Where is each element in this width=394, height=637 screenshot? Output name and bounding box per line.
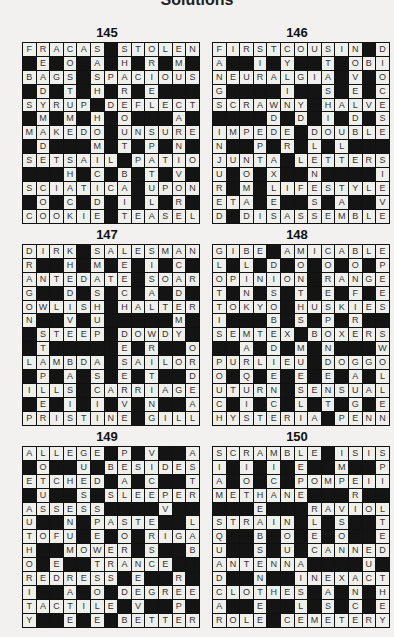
letter-cell: U [227,154,240,167]
letter-cell: P [254,140,267,153]
letter-cell: R [173,572,186,585]
letter-cell: S [105,489,118,502]
letter-cell: E [186,126,199,139]
letter-cell: D [37,85,50,98]
letter-cell: T [322,398,335,411]
black-square [349,461,362,474]
letter-cell: S [77,489,90,502]
letter-cell: S [132,461,145,474]
letter-cell: E [267,370,280,383]
letter-cell: O [335,530,348,543]
letter-cell: B [267,314,280,327]
letter-cell: E [322,287,335,300]
black-square [322,461,335,474]
letter-cell: E [64,614,77,627]
black-square [105,370,118,383]
letter-cell: S [91,287,104,300]
letter-cell: L [159,43,172,56]
letter-cell: R [240,447,253,460]
black-square [105,398,118,411]
black-square [77,314,90,327]
letter-cell: D [308,126,321,139]
letter-cell: E [376,398,389,411]
letter-cell: T [105,273,118,286]
letter-cell: T [213,287,226,300]
letter-cell: I [227,43,240,56]
letter-cell: O [186,342,199,355]
letter-cell: I [322,112,335,125]
black-square [254,112,267,125]
letter-cell: Y [37,99,50,112]
letter-cell: E [132,245,145,258]
black-square [267,544,280,557]
letter-cell: T [376,572,389,585]
letter-cell: E [64,126,77,139]
letter-cell: N [186,43,199,56]
letter-cell: N [173,140,186,153]
letter-cell: R [186,356,199,369]
black-square [227,57,240,70]
letter-cell: O [64,57,77,70]
letter-cell: D [376,544,389,557]
letter-cell: S [91,43,104,56]
letter-cell: G [145,412,158,425]
letter-cell: O [281,273,294,286]
black-square [254,398,267,411]
letter-cell: U [145,182,158,195]
letter-cell: E [322,370,335,383]
letter-cell: L [254,356,267,369]
letter-cell: O [376,356,389,369]
letter-cell: A [145,287,158,300]
black-square [281,370,294,383]
letter-cell: L [50,447,63,460]
black-square [267,530,280,543]
letter-cell: N [145,398,158,411]
letter-cell: R [50,245,63,258]
letter-cell: E [118,273,131,286]
letter-cell: I [363,447,376,460]
letter-cell: U [281,544,294,557]
letter-cell: E [37,572,50,585]
black-square [105,447,118,460]
black-square [118,314,131,327]
black-square [335,314,348,327]
letter-cell: N [186,245,199,258]
letter-cell: E [50,558,63,571]
black-square [77,558,90,571]
black-square [363,530,376,543]
letter-cell: S [64,412,77,425]
letter-cell: O [37,196,50,209]
black-square [227,600,240,613]
black-square [363,196,376,209]
black-square [281,475,294,488]
letter-cell: U [213,168,226,181]
letter-cell: H [64,168,77,181]
letter-cell: B [105,461,118,474]
letter-cell: S [322,301,335,314]
letter-cell: S [335,384,348,397]
letter-cell: N [23,314,36,327]
letter-cell: U [64,530,77,543]
black-square [132,412,145,425]
letter-cell: N [349,43,362,56]
letter-cell: W [267,99,280,112]
black-square [363,516,376,529]
letter-cell: H [64,475,77,488]
black-square [254,370,267,383]
letter-cell: G [349,356,362,369]
black-square [50,259,63,272]
letter-cell: N [295,273,308,286]
letter-cell: P [23,412,36,425]
black-square [227,314,240,327]
letter-cell: C [118,287,131,300]
letter-cell: L [376,384,389,397]
black-square [227,112,240,125]
letter-cell: U [335,126,348,139]
letter-cell: I [64,301,77,314]
letter-cell: I [37,245,50,258]
letter-cell: I [145,71,158,84]
letter-cell: E [267,196,280,209]
letter-cell: A [254,99,267,112]
letter-cell: H [295,301,308,314]
letter-cell: R [159,586,172,599]
